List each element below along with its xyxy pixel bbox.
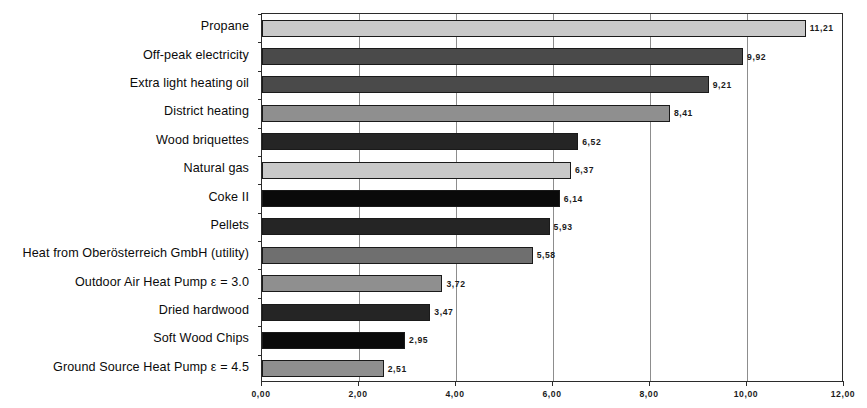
x-axis-tick — [455, 381, 456, 386]
y-axis-tick — [258, 99, 262, 100]
category-label: Natural gas — [183, 162, 249, 175]
y-axis-tick — [258, 156, 262, 157]
bar — [262, 218, 550, 235]
x-axis-tick-label: 8,00 — [639, 389, 658, 399]
bar-value-label: 2,51 — [388, 364, 407, 374]
bar — [262, 304, 430, 321]
y-axis-tick — [258, 128, 262, 129]
bar — [262, 190, 560, 207]
y-axis-tick — [258, 213, 262, 214]
category-label: Wood briquettes — [156, 134, 249, 147]
y-axis-tick — [258, 241, 262, 242]
y-axis-tick — [258, 269, 262, 270]
plot-area: 11,219,929,218,416,526,376,145,935,583,7… — [261, 13, 843, 382]
gridline — [650, 14, 651, 381]
x-axis-tick-label: 10,00 — [734, 389, 759, 399]
x-axis-tick-label: 12,00 — [831, 389, 856, 399]
x-axis-tick-label: 4,00 — [445, 389, 464, 399]
x-axis: 0,002,004,006,008,0010,0012,00 — [261, 381, 843, 382]
bar — [262, 332, 405, 349]
x-axis-tick — [358, 381, 359, 386]
bar-value-label: 5,93 — [554, 222, 573, 232]
category-axis-labels: PropaneOff-peak electricityExtra light h… — [0, 13, 255, 382]
x-axis-tick-label: 6,00 — [542, 389, 561, 399]
bar — [262, 105, 670, 122]
y-axis-tick — [258, 42, 262, 43]
x-axis-tick — [552, 381, 553, 386]
category-label: Dried hardwood — [159, 304, 249, 317]
bar-value-label: 9,92 — [747, 52, 766, 62]
bar-value-label: 3,72 — [446, 279, 465, 289]
bar-value-label: 3,47 — [434, 307, 453, 317]
bar-value-label: 8,41 — [674, 108, 693, 118]
bar-value-label: 5,58 — [537, 250, 556, 260]
gridline — [747, 14, 748, 381]
x-axis-tick-label: 0,00 — [251, 389, 270, 399]
bar-value-label: 11,21 — [810, 23, 834, 33]
category-label: District heating — [164, 105, 249, 118]
category-label: Extra light heating oil — [130, 77, 249, 90]
bar — [262, 20, 806, 37]
bar — [262, 133, 578, 150]
y-axis-tick — [258, 326, 262, 327]
bar — [262, 162, 571, 179]
y-axis-tick — [258, 184, 262, 185]
category-label: Heat from Oberösterreich GmbH (utility) — [23, 247, 249, 260]
bar — [262, 360, 384, 377]
bar-value-label: 2,95 — [409, 335, 428, 345]
category-label: Ground Source Heat Pump ε = 4.5 — [53, 361, 249, 374]
y-axis-tick — [258, 14, 262, 15]
category-label: Propane — [201, 20, 249, 33]
bar — [262, 76, 709, 93]
category-label: Soft Wood Chips — [153, 332, 249, 345]
bar — [262, 247, 533, 264]
category-label: Coke II — [208, 191, 249, 204]
y-axis-tick — [258, 71, 262, 72]
x-axis-tick-label: 2,00 — [348, 389, 367, 399]
x-axis-tick — [843, 381, 844, 386]
bar-chart: PropaneOff-peak electricityExtra light h… — [0, 0, 867, 408]
bar-value-label: 6,37 — [575, 165, 594, 175]
bar-value-label: 9,21 — [713, 80, 732, 90]
category-label: Outdoor Air Heat Pump ε = 3.0 — [75, 276, 249, 289]
y-axis-tick — [258, 355, 262, 356]
x-axis-tick — [261, 381, 262, 386]
bar — [262, 275, 442, 292]
bar-value-label: 6,14 — [564, 194, 583, 204]
x-axis-tick — [649, 381, 650, 386]
bar — [262, 48, 743, 65]
x-axis-tick — [746, 381, 747, 386]
plot-inner: 11,219,929,218,416,526,376,145,935,583,7… — [262, 14, 842, 381]
y-axis-tick — [258, 298, 262, 299]
category-label: Off-peak electricity — [143, 49, 249, 62]
bar-value-label: 6,52 — [582, 137, 601, 147]
category-label: Pellets — [211, 219, 250, 232]
